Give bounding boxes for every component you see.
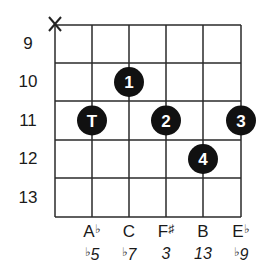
note-name-label: E♭ <box>226 222 256 242</box>
interval-degree-label: ♭5 <box>77 245 107 264</box>
fret-number-label: 9 <box>8 34 48 54</box>
svg-text:2: 2 <box>161 112 170 131</box>
accidental-icon: ♭ <box>244 222 250 236</box>
finger-dot-1: 1 <box>114 67 144 97</box>
fret-number-label: 11 <box>8 111 48 131</box>
note-name-label: A♭ <box>77 222 107 242</box>
svg-text:3: 3 <box>236 112 245 131</box>
interval-degree-label: ♭7 <box>114 245 144 264</box>
accidental-icon: ♯ <box>168 222 174 236</box>
fret-number-label: 10 <box>8 72 48 92</box>
note-name-label: C <box>114 222 144 242</box>
interval-degree-label: 13 <box>188 245 218 263</box>
note-name-label: F♯ <box>151 222 181 242</box>
fret-number-label: 13 <box>8 188 48 208</box>
finger-dot-t: T <box>77 106 107 136</box>
note-name-label: B <box>188 222 218 242</box>
svg-text:1: 1 <box>124 73 133 92</box>
svg-text:T: T <box>87 112 98 131</box>
interval-degree-label: 3 <box>151 245 181 263</box>
finger-dot-2: 2 <box>151 106 181 136</box>
fret-number-label: 12 <box>8 149 48 169</box>
interval-degree-label: ♭9 <box>226 245 256 264</box>
svg-text:4: 4 <box>198 150 208 169</box>
accidental-icon: ♭ <box>95 222 101 236</box>
finger-dot-3: 3 <box>226 106 256 136</box>
finger-dot-4: 4 <box>188 144 218 174</box>
